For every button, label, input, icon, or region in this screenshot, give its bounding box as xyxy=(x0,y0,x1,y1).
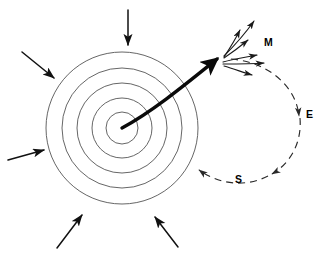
label-s: S xyxy=(235,173,242,185)
diagram-svg: M E S xyxy=(0,0,328,255)
fan-arrows-group xyxy=(223,21,264,75)
inflow-arrow-upper-left xyxy=(22,52,54,78)
inflow-arrow-bottom-left xyxy=(57,215,82,248)
fan-arrow-4 xyxy=(223,55,257,62)
loop-arc-lower-right xyxy=(272,118,300,174)
inflow-arrow-bottom-right xyxy=(155,217,178,247)
outflow-loop-group xyxy=(199,59,300,183)
fan-arrow-5 xyxy=(223,63,264,64)
inflow-arrows-group xyxy=(8,10,178,248)
label-m: M xyxy=(264,36,273,48)
inflow-arrow-left xyxy=(8,150,44,160)
diagram-canvas: M E S xyxy=(0,0,328,255)
loop-arc-upper-right xyxy=(231,59,299,116)
loop-arc-bottom xyxy=(199,170,268,183)
label-e: E xyxy=(306,108,313,120)
fan-arrow-6 xyxy=(224,66,252,75)
